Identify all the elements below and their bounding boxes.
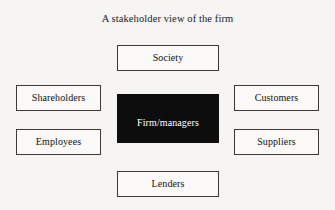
node-society-label: Society: [153, 52, 184, 64]
stakeholder-diagram: A stakeholder view of the firm Society S…: [0, 0, 335, 210]
node-employees-label: Employees: [36, 136, 81, 148]
node-shareholders-label: Shareholders: [32, 92, 85, 104]
node-firm-managers: Firm/managers: [117, 94, 219, 143]
node-society: Society: [117, 45, 219, 71]
node-employees: Employees: [16, 129, 101, 155]
node-lenders: Lenders: [117, 171, 219, 197]
node-customers: Customers: [234, 85, 319, 111]
node-customers-label: Customers: [255, 92, 299, 104]
node-firm-managers-label: Firm/managers: [137, 117, 199, 129]
diagram-title: A stakeholder view of the firm: [0, 13, 335, 25]
node-shareholders: Shareholders: [16, 85, 101, 111]
node-suppliers-label: Suppliers: [257, 136, 296, 148]
node-suppliers: Suppliers: [234, 129, 319, 155]
node-lenders-label: Lenders: [152, 178, 185, 190]
